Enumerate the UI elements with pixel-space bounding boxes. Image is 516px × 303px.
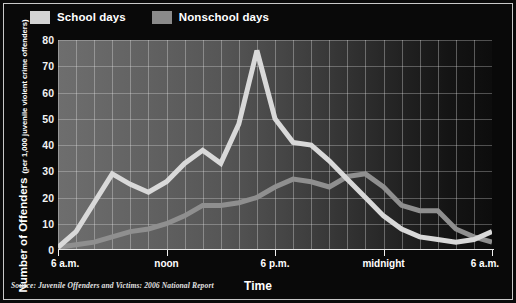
chart-figure: School days Nonschool days Number of Off…: [0, 0, 516, 303]
y-tick-label: 60: [30, 87, 54, 99]
y-axis-title-sub: (per 1,000 juvenile violent crime offend…: [20, 19, 29, 173]
x-tick-mark: [167, 250, 168, 256]
legend-label-nonschool-days: Nonschool days: [179, 11, 269, 23]
y-tick-label: 70: [30, 60, 54, 72]
x-axis-tick-labels: 6 a.m.noon6 p.m.midnight6 a.m.: [0, 250, 516, 276]
x-tick-label: 6 a.m.: [471, 258, 499, 269]
chart-legend: School days Nonschool days: [30, 8, 269, 26]
series-lines: [58, 40, 492, 250]
x-tick-mark: [384, 250, 385, 256]
plot-area: [58, 40, 492, 250]
x-tick-mark: [492, 250, 493, 256]
y-tick-label: 20: [30, 192, 54, 204]
x-tick-mark: [58, 250, 59, 256]
y-tick-label: 40: [30, 139, 54, 151]
y-tick-label: 50: [30, 113, 54, 125]
x-tick-label: noon: [154, 258, 178, 269]
y-axis-tick-labels: 01020304050607080: [30, 40, 54, 250]
legend-label-school-days: School days: [57, 11, 126, 23]
legend-swatch-school-days: [30, 11, 50, 24]
x-tick-label: midnight: [362, 258, 404, 269]
y-tick-label: 80: [30, 34, 54, 46]
x-tick-label: 6 a.m.: [51, 258, 79, 269]
y-tick-label: 10: [30, 218, 54, 230]
y-tick-label: 30: [30, 165, 54, 177]
legend-item-school-days: School days: [30, 11, 126, 24]
series-line-school-days: [58, 51, 492, 248]
legend-swatch-nonschool-days: [152, 11, 172, 24]
x-tick-mark: [275, 250, 276, 256]
source-note: Source: Juvenile Offenders and Victims: …: [11, 281, 214, 290]
x-tick-label: 6 p.m.: [261, 258, 290, 269]
legend-item-nonschool-days: Nonschool days: [152, 11, 269, 24]
